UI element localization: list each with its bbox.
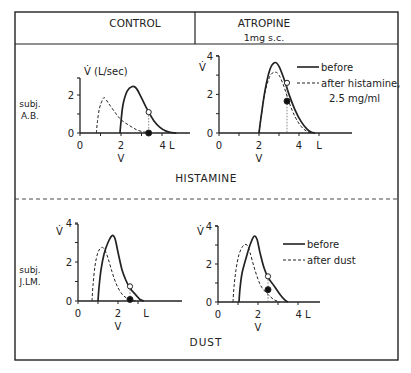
column-title-control: CONTROL [109, 17, 160, 29]
legend-label: 2.5 mg/ml [329, 93, 380, 104]
legend-label: after dust [307, 255, 356, 266]
x-tick-label: 2 [115, 308, 121, 319]
plot-atropine-histamine: 024024LVV̇beforeafter histamine,2.5 mg/m… [199, 51, 400, 164]
figure: CONTROL ATROPINE 1mg s.c. subj. A.B. sub… [0, 0, 411, 373]
column-title-atropine: ATROPINE [238, 17, 290, 29]
subject-label-bottom-2: J.LM. [18, 277, 40, 287]
x-tick-label: 4 L [159, 140, 175, 151]
y-tick-label: 0 [66, 296, 72, 307]
x-unit-label: L [316, 140, 322, 151]
column-subtitle-dose: 1mg s.c. [244, 32, 285, 43]
x-tick-label: 0 [77, 140, 83, 151]
plot-control-histamine: 02024 LVV̇ (L/sec) [68, 65, 190, 164]
y-tick-label: 0 [206, 297, 212, 308]
y-tick-label: 4 [66, 218, 72, 229]
x-axis-label: V [255, 322, 262, 333]
plot-atropine-dust: 024024 LVV̇beforeafter dust [197, 221, 356, 333]
x-tick-label: 0 [75, 308, 81, 319]
section-label-histamine: HISTAMINE [175, 172, 237, 184]
open-marker [265, 274, 270, 279]
x-axis-label: V [115, 321, 122, 332]
open-marker [146, 110, 151, 115]
x-tick-label: 2 [118, 140, 124, 151]
x-unit-label: L [143, 308, 149, 319]
legend-label: after histamine, [321, 78, 400, 89]
y-axis-label: V̇ (L/sec) [84, 65, 128, 77]
y-tick-label: 4 [207, 51, 213, 62]
y-axis-label: V̇ [197, 225, 204, 237]
y-tick-label: 2 [207, 89, 213, 100]
plot-control-dust: 02402LVV̇ [56, 218, 182, 332]
x-tick-label: 4 L [295, 309, 311, 320]
x-tick-label: 2 [256, 140, 262, 151]
legend-label: before [307, 239, 339, 250]
subject-label-bottom-1: subj. [19, 265, 40, 275]
y-axis-label: V̇ [199, 61, 206, 73]
y-tick-label: 2 [206, 259, 212, 270]
y-axis-label: V̇ [56, 225, 63, 237]
x-tick-label: 4 [296, 140, 302, 151]
filled-marker [146, 130, 152, 136]
series-before [98, 235, 144, 301]
subject-label-top-2: A.B. [21, 111, 39, 121]
y-tick-label: 0 [207, 128, 213, 139]
filled-marker [265, 287, 271, 293]
y-tick-label: 2 [66, 257, 72, 268]
x-tick-label: 2 [255, 309, 261, 320]
y-tick-label: 4 [206, 221, 212, 232]
open-marker [127, 284, 132, 289]
legend-label: before [321, 62, 353, 73]
filled-marker [284, 98, 290, 104]
x-tick-label: 0 [215, 309, 221, 320]
x-tick-label: 0 [216, 140, 222, 151]
open-marker [284, 80, 289, 85]
section-label-dust: DUST [190, 336, 223, 348]
subject-label-top-1: subj. [19, 99, 40, 109]
y-tick-label: 2 [68, 90, 74, 101]
x-axis-label: V [256, 153, 263, 164]
series-before [239, 236, 288, 302]
filled-marker [127, 296, 133, 302]
y-tick-label: 0 [68, 128, 74, 139]
x-axis-label: V [118, 153, 125, 164]
